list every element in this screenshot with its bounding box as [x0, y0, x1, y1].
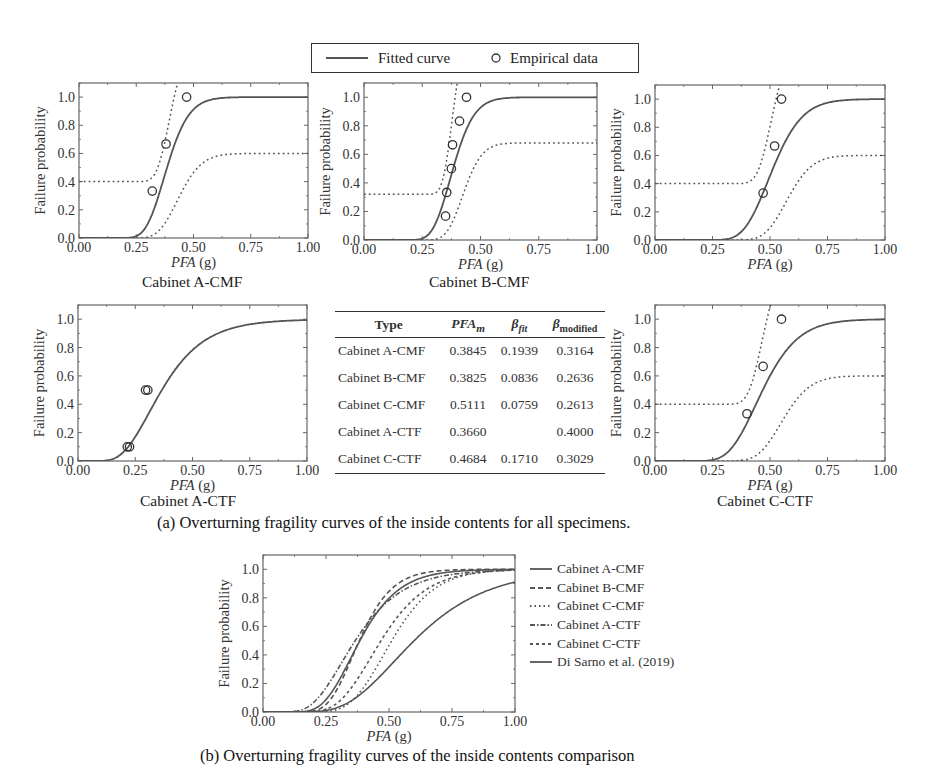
chart-cabinet-c-ctf: 0.000.250.500.751.000.00.20.40.60.81.0Fa…: [596, 295, 936, 520]
plot-svg: 0.000.250.500.751.000.00.20.40.60.81.0Fa…: [0, 295, 320, 520]
y-tick-label: 0.0: [634, 233, 652, 248]
chart-cabinet-a-ctf: 0.000.250.500.751.000.00.20.40.60.81.0Fa…: [0, 295, 320, 520]
x-tick-label: 1.00: [873, 463, 898, 478]
header-pfa-m: PFAm: [442, 312, 493, 338]
table-cell-type: Cabinet A-CTF: [335, 419, 442, 446]
comparison-legend-label: Cabinet A-CMF: [557, 561, 644, 577]
empirical-data-point: [462, 93, 470, 101]
caption-a: (a) Overturning fragility curves of the …: [157, 513, 630, 533]
comparison-legend-item: Cabinet C-CTF: [528, 634, 674, 653]
empirical-data-point: [162, 140, 170, 148]
table-cell-type: Cabinet B-CMF: [335, 365, 442, 392]
fitted-curve: [655, 99, 885, 240]
circle-marker-icon: [490, 52, 502, 64]
x-tick-label: 0.50: [468, 242, 493, 257]
plot-svg: 0.000.250.500.751.000.00.20.40.60.81.0Fa…: [596, 295, 936, 520]
empirical-data-point: [148, 187, 156, 195]
empirical-data-point: [770, 142, 778, 150]
table-cell-type: Cabinet C-CTF: [335, 446, 442, 474]
x-axis-label: PFA (g): [746, 256, 792, 273]
y-tick-label: 0.4: [634, 397, 652, 412]
fitted-curve: [79, 97, 308, 238]
x-tick-label: 0.25: [314, 714, 339, 729]
x-tick-label: 0.25: [700, 242, 725, 257]
header-type: Type: [335, 312, 442, 338]
comparison-legend-label: Cabinet C-CTF: [557, 636, 641, 652]
title-b-cmf: Cabinet B-CMF: [429, 273, 529, 291]
y-tick-label: 0.6: [634, 369, 652, 384]
axes-frame: [263, 555, 515, 712]
table-row: Cabinet A-CTF0.36600.4000: [335, 419, 605, 446]
plot-svg: 0.000.250.500.751.000.00.20.40.60.81.0Fa…: [596, 78, 936, 298]
y-tick-label: 0.6: [343, 147, 361, 162]
header-bmod-text: β: [553, 316, 560, 331]
title-a-ctf: Cabinet A-CTF: [140, 492, 236, 510]
table-cell-type: Cabinet A-CMF: [335, 337, 442, 365]
empirical-data-point: [448, 141, 456, 149]
x-axis-label: PFA (g): [365, 728, 411, 745]
table-row: Cabinet C-CMF0.51110.07590.2613: [335, 392, 605, 419]
y-tick-label: 0.8: [58, 118, 76, 133]
x-tick-label: 0.25: [123, 463, 148, 478]
line-style-icon: [528, 565, 554, 573]
y-tick-label: 0.0: [634, 454, 652, 469]
comparison-legend: Cabinet A-CMFCabinet B-CMFCabinet C-CMFC…: [528, 560, 674, 672]
y-tick-label: 0.2: [634, 426, 652, 441]
fitted-curve: [78, 320, 307, 461]
y-tick-label: 0.4: [57, 397, 75, 412]
legend-empirical-label: Empirical data: [510, 50, 598, 67]
chart-comparison: 0.000.250.500.751.000.00.20.40.60.81.0Fa…: [200, 550, 530, 750]
empirical-data-point: [441, 212, 449, 220]
table-cell-type: Cabinet C-CMF: [335, 392, 442, 419]
x-tick-label: 0.50: [377, 714, 402, 729]
table-row: Cabinet B-CMF0.38250.08360.2636: [335, 365, 605, 392]
y-tick-label: 0.2: [634, 205, 652, 220]
x-tick-label: 0.75: [238, 463, 263, 478]
confidence-bound-curve: [655, 78, 885, 184]
x-tick-label: 0.50: [181, 240, 206, 255]
plot-svg: 0.000.250.500.751.000.00.20.40.60.81.0Fa…: [200, 550, 530, 750]
header-bfit-sub: fit: [518, 323, 527, 334]
comparison-legend-label: Cabinet B-CMF: [557, 580, 644, 596]
header-pfa-sub: m: [476, 322, 485, 334]
comparison-legend-label: Di Sarno et al. (2019): [557, 654, 674, 670]
x-axis-label: PFA (g): [170, 254, 216, 271]
y-axis-label: Failure probability: [317, 107, 333, 216]
table-cell-pfa-m: 0.3845: [442, 337, 493, 365]
x-tick-label: 0.75: [440, 714, 465, 729]
solid-line-icon: [326, 53, 368, 63]
header-beta-modified: βmodified: [545, 312, 605, 338]
table-cell-beta-fit: 0.0836: [494, 365, 545, 392]
legend-fitted-label: Fitted curve: [378, 50, 450, 67]
axes-frame: [655, 85, 885, 240]
table-cell-beta-fit: [494, 419, 545, 446]
y-tick-label: 0.4: [58, 175, 76, 190]
y-axis-label: Failure probability: [608, 328, 624, 437]
table-cell-beta-fit: 0.0759: [494, 392, 545, 419]
table-cell-beta-fit: 0.1710: [494, 446, 545, 474]
confidence-bound-curve: [79, 154, 308, 239]
legend-fitted-item: Fitted curve: [326, 50, 450, 67]
confidence-bound-curve: [79, 78, 308, 182]
y-tick-label: 1.0: [242, 562, 260, 577]
header-pfa-text: PFA: [451, 316, 476, 331]
x-tick-label: 0.75: [815, 242, 840, 257]
x-tick-label: 0.50: [758, 242, 783, 257]
comparison-curve: [263, 582, 515, 712]
line-style-icon: [528, 602, 554, 610]
y-tick-label: 0.0: [242, 705, 260, 720]
y-tick-label: 0.6: [634, 148, 652, 163]
comparison-legend-label: Cabinet C-CMF: [557, 598, 644, 614]
empirical-data-point: [777, 315, 785, 323]
y-tick-label: 0.2: [58, 203, 76, 218]
x-tick-label: 0.75: [815, 463, 840, 478]
empirical-data-point: [759, 362, 767, 370]
table-row: Cabinet A-CMF0.38450.19390.3164: [335, 337, 605, 365]
comparison-legend-item: Cabinet B-CMF: [528, 579, 674, 598]
comparison-legend-item: Cabinet C-CMF: [528, 597, 674, 616]
y-tick-label: 0.0: [58, 231, 76, 246]
legend-empirical-item: Empirical data: [490, 50, 598, 67]
y-tick-label: 0.8: [634, 120, 652, 135]
y-tick-label: 1.0: [634, 92, 652, 107]
y-tick-label: 1.0: [57, 312, 75, 327]
